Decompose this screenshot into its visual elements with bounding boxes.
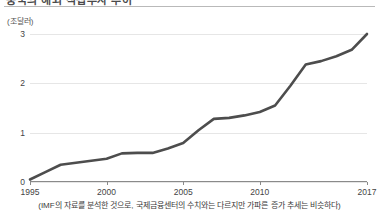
- line-series: [30, 34, 367, 182]
- x-tick-label: 2017: [358, 187, 377, 197]
- x-axis-ticks: 19952000200520102017: [30, 182, 367, 198]
- y-tick-label: 0: [20, 177, 25, 187]
- plot-area: 3210: [30, 34, 367, 182]
- y-tick-label: 1: [20, 128, 25, 138]
- chart-figure: 중국의 해외 직접투자 추이 (조달러) 3210 19952000200520…: [0, 0, 379, 219]
- x-tick-mark: [260, 182, 261, 185]
- y-tick-label: 3: [20, 29, 25, 39]
- x-tick-label: 1995: [21, 187, 40, 197]
- x-tick-mark: [30, 182, 31, 185]
- x-tick-label: 2000: [97, 187, 116, 197]
- x-tick-mark: [183, 182, 184, 185]
- header-divider: [4, 6, 375, 7]
- x-tick-label: 2010: [250, 187, 269, 197]
- x-tick-mark: [367, 182, 368, 185]
- y-tick-label: 2: [20, 78, 25, 88]
- chart-caption: (IMF의 자료를 분석한 것으로, 국제금융센터의 수치와는 다르지만 가파른…: [0, 199, 379, 210]
- y-axis-unit-label: (조달러): [7, 15, 33, 26]
- x-tick-label: 2005: [174, 187, 193, 197]
- x-tick-mark: [107, 182, 108, 185]
